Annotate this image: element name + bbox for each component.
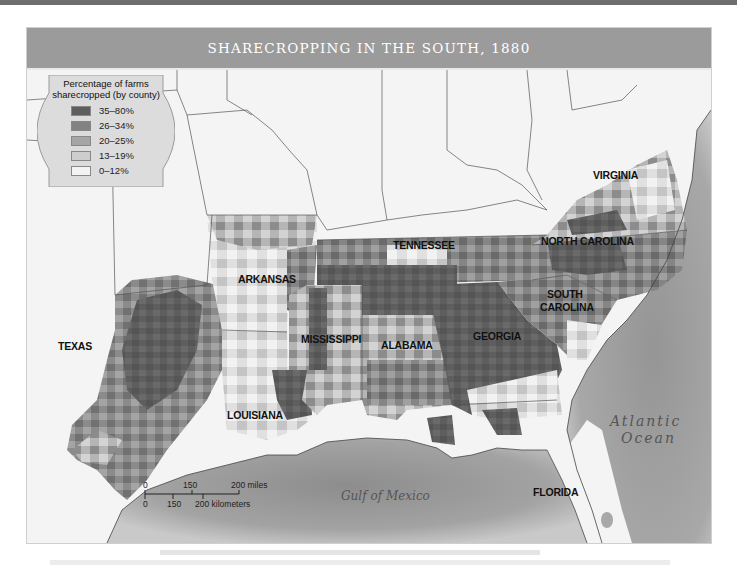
- label-virginia: VIRGINIA: [593, 169, 638, 181]
- label-texas: TEXAS: [58, 340, 92, 352]
- label-atlantic-1: Atlantic: [610, 413, 681, 429]
- label-alabama: ALABAMA: [381, 339, 433, 351]
- map-figure: SHARECROPPING IN THE SOUTH, 1880: [26, 27, 712, 544]
- label-north-carolina: NORTH CAROLINA: [541, 235, 634, 247]
- scale-km-200: 200 kilometers: [195, 499, 250, 509]
- legend-label: 0–12%: [99, 165, 129, 176]
- top-border-bar: [0, 0, 737, 5]
- legend-title-line2: sharecropped (by county): [37, 89, 175, 100]
- legend-item-26-34: 26–34%: [71, 120, 134, 131]
- legend-swatch: [71, 136, 91, 146]
- scale-miles-0: 0: [143, 480, 148, 490]
- label-florida: FLORIDA: [533, 486, 578, 498]
- scale-km-0: 0: [143, 499, 148, 509]
- scale-bar: 0 150 200 miles 0 150 200 kilometers: [143, 476, 303, 516]
- map-title: SHARECROPPING IN THE SOUTH, 1880: [208, 40, 531, 56]
- label-arkansas: ARKANSAS: [238, 273, 296, 285]
- label-tennessee: TENNESSEE: [393, 239, 455, 251]
- legend-label: 35–80%: [99, 105, 134, 116]
- legend-label: 20–25%: [99, 135, 134, 146]
- legend-swatch: [71, 166, 91, 176]
- lake-okeechobee: [601, 512, 613, 528]
- label-mississippi: MISSISSIPPI: [301, 333, 361, 345]
- legend-item-13-19: 13–19%: [71, 150, 134, 161]
- legend-title-line1: Percentage of farms: [37, 78, 175, 89]
- map-header: SHARECROPPING IN THE SOUTH, 1880: [27, 28, 711, 70]
- label-south-carolina-1: SOUTH: [547, 288, 583, 300]
- legend-item-20-25: 20–25%: [71, 135, 134, 146]
- label-south-carolina-2: CAROLINA: [540, 301, 594, 313]
- scale-km-150: 150: [167, 499, 181, 509]
- label-gulf-of-mexico: Gulf of Mexico: [341, 489, 430, 503]
- scale-miles-150: 150: [183, 480, 197, 490]
- legend-item-35-80: 35–80%: [71, 105, 134, 116]
- legend-item-0-12: 0–12%: [71, 165, 129, 176]
- legend-label: 26–34%: [99, 120, 134, 131]
- legend-title: Percentage of farms sharecropped (by cou…: [37, 78, 175, 100]
- legend-swatch: [71, 106, 91, 116]
- legend-label: 13–19%: [99, 150, 134, 161]
- label-louisiana: LOUISIANA: [227, 409, 283, 421]
- legend-swatch: [71, 121, 91, 131]
- page-text-remnant: [40, 548, 700, 568]
- label-atlantic-2: Ocean: [621, 430, 676, 446]
- legend: Percentage of farms sharecropped (by cou…: [37, 75, 175, 187]
- label-georgia: GEORGIA: [473, 330, 521, 342]
- legend-swatch: [71, 151, 91, 161]
- scale-miles-200: 200 miles: [231, 480, 267, 490]
